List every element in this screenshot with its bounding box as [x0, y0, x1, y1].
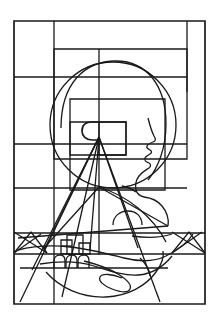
outer-frame: [14, 21, 205, 304]
nested-rectangles: [54, 49, 187, 190]
artwork-canvas: Head in Profile with Radiating Vision an…: [0, 0, 220, 324]
eye-c-shape: [82, 122, 99, 140]
face-profile: [122, 118, 168, 226]
radiating-sight-rays: [20, 137, 160, 302]
head-circle-halo: [50, 61, 176, 188]
open-hand: [18, 234, 193, 297]
shoulder-curves: [99, 187, 172, 242]
horizontal-rule-lines: [14, 77, 205, 268]
line-drawing: [0, 0, 220, 324]
